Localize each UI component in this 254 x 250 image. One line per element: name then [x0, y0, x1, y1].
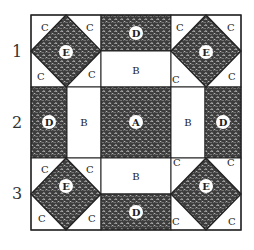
label-a: A — [131, 117, 140, 128]
label-c: C — [38, 213, 46, 224]
label-b: B — [80, 117, 87, 128]
label-d: D — [45, 117, 54, 128]
label-c: C — [88, 213, 96, 224]
label-d: D — [132, 207, 141, 218]
label-e: E — [62, 181, 70, 192]
label-c: C — [172, 216, 180, 227]
label-e: E — [62, 47, 70, 58]
label-c: C — [228, 71, 236, 82]
quilt-block-svg: E D E D A D E D E B B B B C C C C C C C … — [0, 0, 254, 250]
label-c: C — [41, 22, 49, 33]
block-bottom-middle — [101, 158, 171, 230]
label-b: B — [132, 171, 139, 182]
label-c: C — [37, 71, 45, 82]
label-c: C — [86, 164, 94, 175]
label-c: C — [86, 22, 94, 33]
label-d: D — [132, 28, 141, 39]
quilt-diagram: 1 2 3 — [0, 0, 254, 250]
label-c: C — [173, 157, 181, 168]
block-top-middle — [101, 15, 171, 87]
label-c: C — [41, 164, 49, 175]
label-e: E — [202, 181, 210, 192]
label-d: D — [219, 117, 228, 128]
label-c: C — [172, 74, 180, 85]
label-c: C — [228, 216, 236, 227]
label-b: B — [132, 65, 139, 76]
block-middle-left — [31, 87, 101, 158]
label-c: C — [88, 69, 96, 80]
label-b: B — [184, 117, 191, 128]
label-c: C — [227, 22, 235, 33]
label-c: C — [176, 22, 184, 33]
label-e: E — [202, 47, 210, 58]
label-c: C — [227, 157, 235, 168]
block-middle-right — [171, 87, 241, 158]
